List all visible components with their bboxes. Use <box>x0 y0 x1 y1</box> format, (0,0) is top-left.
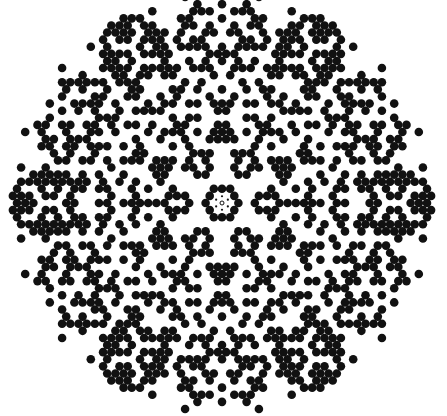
pattern-dot <box>181 405 190 414</box>
pattern-dot <box>390 298 399 307</box>
pattern-dot <box>320 177 329 186</box>
pattern-dot <box>74 263 83 272</box>
pattern-dot <box>378 78 387 87</box>
pattern-dot <box>50 263 59 272</box>
pattern-dot <box>152 199 161 208</box>
dot-pattern-image <box>0 0 447 416</box>
pattern-dot <box>148 277 157 286</box>
pattern-dot <box>148 390 157 399</box>
pattern-dot <box>349 355 358 364</box>
pattern-dot <box>148 291 157 300</box>
pattern-dot <box>78 156 87 165</box>
pattern-dot <box>308 241 317 250</box>
pattern-dot <box>17 234 26 243</box>
core-small-dot <box>215 199 217 201</box>
pattern-dot <box>189 21 198 30</box>
pattern-dot <box>353 263 362 272</box>
pattern-dot <box>95 256 104 265</box>
pattern-dot <box>160 28 169 37</box>
pattern-dot <box>82 78 91 87</box>
pattern-dot <box>242 284 251 293</box>
pattern-dot <box>173 206 182 215</box>
pattern-dot <box>128 57 137 66</box>
pattern-dot <box>312 348 321 357</box>
pattern-dot <box>197 390 206 399</box>
pattern-dot <box>287 348 296 357</box>
pattern-dot <box>169 142 178 151</box>
pattern-dot <box>115 291 124 300</box>
pattern-dot <box>316 142 325 151</box>
pattern-dot <box>115 50 124 59</box>
pattern-dot <box>160 298 169 307</box>
pattern-dot <box>164 348 173 357</box>
pattern-dot <box>337 362 346 371</box>
core-small-dot <box>227 205 229 207</box>
pattern-dot <box>251 57 260 66</box>
pattern-dot <box>234 227 243 236</box>
pattern-dot <box>238 248 247 257</box>
pattern-dot <box>164 50 173 59</box>
pattern-dot <box>205 50 214 59</box>
pattern-dot <box>333 113 342 122</box>
pattern-dot <box>144 213 153 222</box>
pattern-dot <box>185 284 194 293</box>
pattern-dot <box>66 78 75 87</box>
pattern-dot <box>218 398 227 407</box>
pattern-dot <box>378 106 387 115</box>
pattern-dot <box>349 99 358 108</box>
pattern-dot <box>197 7 206 16</box>
pattern-dot <box>337 50 346 59</box>
pattern-dot <box>230 92 239 101</box>
pattern-dot <box>333 241 342 250</box>
pattern-dot <box>304 263 313 272</box>
pattern-dot <box>107 163 116 172</box>
pattern-dot <box>210 28 219 37</box>
pattern-dot <box>349 156 358 165</box>
pattern-dot <box>283 199 292 208</box>
pattern-dot <box>78 298 87 307</box>
pattern-dot <box>267 85 276 94</box>
pattern-dot <box>242 99 251 108</box>
pattern-dot <box>361 319 370 328</box>
pattern-dot <box>58 291 67 300</box>
pattern-dot <box>374 156 383 165</box>
pattern-dot <box>173 192 182 201</box>
pattern-dot <box>189 248 198 257</box>
pattern-dot <box>95 128 104 137</box>
pattern-dot <box>365 99 374 108</box>
pattern-dot <box>111 270 120 279</box>
pattern-dot <box>189 64 198 73</box>
pattern-dot <box>275 199 284 208</box>
pattern-dot <box>119 227 128 236</box>
pattern-dot <box>337 319 346 328</box>
pattern-dot <box>419 163 428 172</box>
pattern-dot <box>119 156 128 165</box>
pattern-dot <box>107 206 116 215</box>
pattern-dot <box>378 334 387 343</box>
pattern-dot <box>218 85 227 94</box>
pattern-dot <box>279 305 288 314</box>
pattern-dot <box>316 199 325 208</box>
pattern-dot <box>222 50 231 59</box>
pattern-dot <box>132 177 141 186</box>
hexagonal-dot-pattern <box>0 0 447 416</box>
pattern-dot <box>17 163 26 172</box>
pattern-dot <box>292 213 301 222</box>
pattern-dot <box>210 71 219 80</box>
pattern-dot <box>160 270 169 279</box>
pattern-dot <box>337 334 346 343</box>
pattern-dot <box>402 277 411 286</box>
pattern-dot <box>115 348 124 357</box>
pattern-dot <box>103 142 112 151</box>
pattern-dot <box>205 7 214 16</box>
pattern-dot <box>107 192 116 201</box>
pattern-dot <box>279 92 288 101</box>
pattern-dot <box>140 149 149 158</box>
pattern-dot <box>58 64 67 73</box>
pattern-dot <box>312 92 321 101</box>
pattern-dot <box>316 156 325 165</box>
pattern-dot <box>341 170 350 179</box>
pattern-dot <box>308 213 317 222</box>
pattern-dot <box>119 256 128 265</box>
pattern-dot <box>341 227 350 236</box>
